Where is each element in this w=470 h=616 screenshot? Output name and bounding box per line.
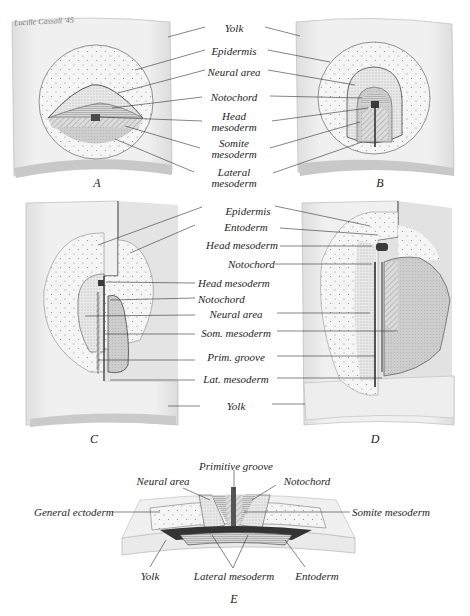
- label-neural-area-cd: Neural area: [209, 308, 262, 320]
- label-lat-mesoderm-cd: Lat. mesoderm: [203, 373, 268, 385]
- label-notochord-ab: Notochord: [211, 91, 258, 103]
- label-head-mesoderm-c: Head mesoderm: [198, 277, 270, 289]
- panel-b-drawing: [265, 18, 454, 176]
- label-yolk-ab: Yolk: [225, 22, 244, 34]
- panel-letter-c: C: [90, 432, 98, 447]
- label-yolk-cd: Yolk: [227, 400, 246, 412]
- label-epidermis-ab: Epidermis: [211, 45, 256, 57]
- label-som-mesoderm-cd: Som. mesoderm: [201, 327, 271, 339]
- label-somite-mesoderm-e: Somite mesoderm: [352, 506, 430, 518]
- label-head-mesoderm-ab-2: mesoderm: [211, 121, 256, 133]
- label-notochord-d: Notochord: [228, 258, 275, 270]
- label-general-ectoderm-e: General ectoderm: [34, 506, 114, 518]
- label-head-mesoderm-d: Head mesoderm: [206, 239, 278, 251]
- label-somite-mesoderm-ab-2: mesoderm: [211, 148, 256, 160]
- label-epidermis-cd: Epidermis: [225, 205, 270, 217]
- panel-d-drawing: [272, 201, 454, 425]
- panel-letter-e: E: [230, 592, 237, 607]
- label-neural-area-ab: Neural area: [207, 66, 260, 78]
- label-primitive-groove-e: Primitive groove: [199, 460, 273, 472]
- label-lateral-mesoderm-e: Lateral mesoderm: [194, 570, 274, 582]
- panel-letter-b: B: [376, 176, 383, 191]
- label-yolk-e: Yolk: [141, 570, 160, 582]
- label-entoderm-e: Entoderm: [295, 570, 338, 582]
- label-prim-groove-cd: Prim. groove: [207, 351, 265, 363]
- label-lateral-mesoderm-ab-2: mesoderm: [211, 177, 256, 189]
- label-entoderm-cd: Entoderm: [224, 221, 267, 233]
- label-notochord-e: Notochord: [284, 475, 331, 487]
- panel-letter-a: A: [93, 176, 100, 191]
- label-notochord-c: Notochord: [198, 293, 245, 305]
- panel-letter-d: D: [371, 432, 380, 447]
- label-neural-area-e: Neural area: [136, 475, 189, 487]
- panel-a-drawing: [12, 18, 205, 178]
- panel-c-drawing: [26, 201, 202, 427]
